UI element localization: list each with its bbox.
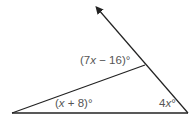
exterior-angle-label: (7x − 16)° [80, 54, 130, 66]
left-angle-label: (x + 8)° [55, 97, 93, 109]
triangle-diagram: (7x − 16)° (x + 8)° 4x° [0, 0, 195, 120]
right-angle-label: 4x° [159, 97, 176, 109]
